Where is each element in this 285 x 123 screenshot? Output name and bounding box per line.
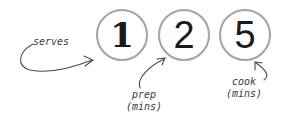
cook-value: 5 <box>234 16 255 54</box>
prep-arrow-icon <box>139 59 164 88</box>
serves-arrow-icon <box>21 44 92 71</box>
prep-label: prep (mins) <box>124 89 164 113</box>
prep-label-line2: (mins) <box>124 101 164 113</box>
prep-value: 2 <box>173 16 194 54</box>
recipe-stats-diagram: 1 2 5 serves prep (mins) cook (mins) <box>0 0 285 123</box>
cook-label: cook (mins) <box>224 76 264 100</box>
cook-circle: 5 <box>219 9 271 61</box>
cook-label-line1: cook <box>224 76 264 88</box>
serves-circle: 1 <box>96 9 148 61</box>
cook-label-line2: (mins) <box>224 88 264 100</box>
serves-label: serves <box>33 36 69 48</box>
prep-circle: 2 <box>158 9 210 61</box>
serves-value: 1 <box>110 18 134 52</box>
prep-label-line1: prep <box>124 89 164 101</box>
